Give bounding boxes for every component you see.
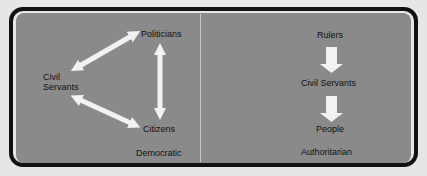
arrow-civil-servants-citizens [76,98,135,125]
node-civil-servants-line1: Civil [43,72,60,82]
arrow-politicians-civil-servants [76,34,135,68]
node-civil-servants: Civil Servants [301,78,356,88]
node-civil-servants-line2: Servants [43,82,79,92]
node-politicians: Politicians [141,29,182,39]
caption-authoritarian: Authoritarian [301,147,352,157]
arrow-civil-servants-people [320,96,343,122]
node-rulers: Rulers [317,30,343,40]
node-citizens: Citizens [143,124,175,134]
node-people: People [316,124,344,134]
arrow-rulers-civil-servants [320,47,343,73]
caption-democratic: Democratic [136,148,182,158]
